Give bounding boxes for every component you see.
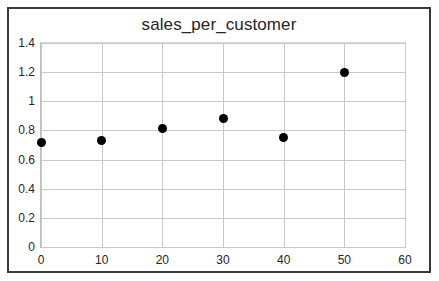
chart-title: sales_per_customer: [9, 15, 429, 35]
y-tick-label: 1.4: [18, 36, 35, 50]
x-tick-label: 40: [277, 253, 290, 267]
x-tick-label: 10: [95, 253, 108, 267]
gridline-vertical: [162, 43, 163, 247]
chart-frame: sales_per_customer 00.20.40.60.811.21.4 …: [7, 7, 431, 273]
gridline-vertical: [284, 43, 285, 247]
y-tick-label: 1: [28, 94, 35, 108]
x-tick-label: 60: [398, 253, 411, 267]
x-tick-label: 50: [338, 253, 351, 267]
x-tick-label: 0: [38, 253, 45, 267]
data-point: [37, 138, 46, 147]
plot-area: 00.20.40.60.811.21.4 0102030405060: [40, 42, 406, 248]
gridline-vertical: [102, 43, 103, 247]
gridline-horizontal: [41, 247, 405, 248]
data-point: [158, 124, 167, 133]
y-tick-label: 0.8: [18, 123, 35, 137]
y-tick-label: 1.2: [18, 65, 35, 79]
data-point: [279, 133, 288, 142]
y-tick-label: 0.6: [18, 153, 35, 167]
x-tick-label: 30: [216, 253, 229, 267]
gridline-vertical: [405, 43, 406, 247]
x-tick-label: 20: [156, 253, 169, 267]
y-tick-label: 0.2: [18, 211, 35, 225]
gridline-vertical: [223, 43, 224, 247]
data-point: [219, 114, 228, 123]
data-point: [97, 136, 106, 145]
data-point: [340, 68, 349, 77]
y-tick-label: 0.4: [18, 182, 35, 196]
y-tick-label: 0: [28, 240, 35, 254]
